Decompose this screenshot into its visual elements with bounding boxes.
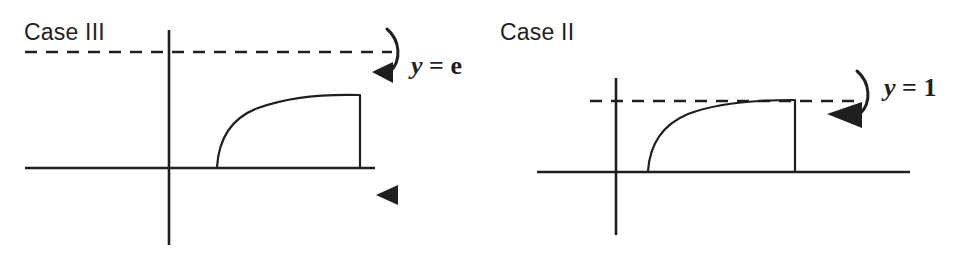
case-3-title: Case III [24, 19, 105, 46]
panel-case-2 [537, 71, 910, 235]
axis-arrowhead-case3 [376, 185, 398, 205]
case-2-equation-label: y = 1 [884, 73, 936, 103]
case-3-equation-value: e [450, 51, 462, 80]
case-3-equation-label: y = e [411, 51, 462, 81]
case-2-equation-relation: = [902, 73, 917, 102]
case-2-equation-value: 1 [923, 73, 936, 102]
rotation-arrowhead-case2 [827, 102, 862, 128]
case-3-equation-variable: y [411, 51, 423, 80]
region-curve-case3 [217, 95, 360, 167]
case-3-equation-relation: = [429, 51, 444, 80]
case-2-title: Case II [500, 19, 574, 46]
panel-case-3 [25, 29, 398, 245]
case-2-equation-variable: y [884, 73, 896, 102]
rotation-arrowhead-case3 [372, 62, 393, 83]
figure-container: Case III Case II y = e y = 1 [0, 0, 960, 262]
region-curve-case2 [648, 100, 795, 171]
case-diagrams-svg [0, 0, 960, 262]
